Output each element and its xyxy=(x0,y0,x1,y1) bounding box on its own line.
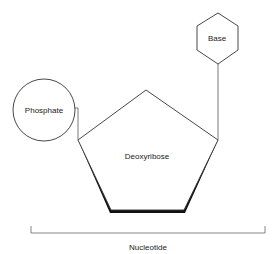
phosphate-node: Phosphate xyxy=(13,79,75,141)
deoxyribose-node: Deoxyribose xyxy=(78,90,218,213)
phosphate-label: Phosphate xyxy=(25,106,64,115)
nucleotide-bracket: Nucleotide xyxy=(31,226,265,252)
nucleotide-diagram: Base Phosphate Deoxyribose Nucleotide xyxy=(0,0,278,254)
pentagon-shape xyxy=(78,90,218,210)
nucleotide-label: Nucleotide xyxy=(129,243,167,252)
base-label: Base xyxy=(208,34,227,43)
base-node: Base xyxy=(197,13,238,64)
deoxyribose-label: Deoxyribose xyxy=(125,152,170,161)
bracket-line xyxy=(31,226,265,233)
